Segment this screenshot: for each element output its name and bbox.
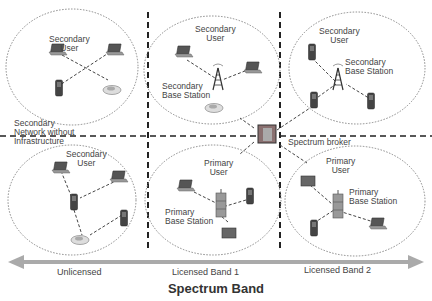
label-tc-bs: SecondaryBase Station [162, 82, 210, 100]
label-tr-bs: SecondaryBase Station [345, 58, 393, 76]
diagram-title: Spectrum Band [0, 281, 432, 296]
label-bl-user: SecondaryUser [66, 150, 107, 168]
label-tl-user: SecondaryUser [49, 35, 90, 53]
band-licensed-1: Licensed Band 1 [172, 267, 239, 277]
label-bc-user: PrimaryUser [204, 159, 233, 177]
cell-top-left [6, 9, 138, 125]
spectrum-broker-icon [258, 125, 276, 143]
label-tr-user: SecondaryUser [319, 27, 360, 45]
label-br-bs: PrimaryBase Station [349, 188, 397, 206]
band-unlicensed: Unlicensed [57, 267, 102, 277]
label-tc-user: SecondaryUser [195, 25, 236, 43]
label-broker: Spectrum broker [288, 138, 351, 147]
label-br-user: PrimaryUser [326, 157, 355, 175]
label-side: SecondaryNetwork withoutInfrastructure [14, 119, 74, 146]
band-licensed-2: Licensed Band 2 [304, 265, 371, 275]
label-bc-bs: PrimaryBase Station [165, 208, 213, 226]
